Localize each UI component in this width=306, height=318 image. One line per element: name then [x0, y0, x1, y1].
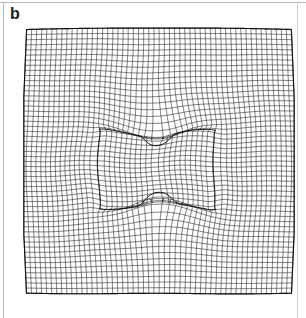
mesh-line-vertical: [180, 28, 188, 293]
mesh-line-vertical: [151, 28, 154, 293]
mesh-line-horizontal: [24, 146, 294, 150]
mesh-line-horizontal: [24, 136, 294, 141]
mesh-line-horizontal: [24, 199, 294, 217]
mesh-line-vertical: [205, 28, 212, 294]
mesh-line-horizontal: [24, 193, 294, 197]
mesh-line-vertical: [220, 28, 228, 294]
mesh-line-vertical: [158, 28, 163, 293]
mesh-line-vertical: [70, 28, 78, 293]
mesh-line-vertical: [127, 28, 134, 293]
mesh-line-vertical: [46, 29, 52, 294]
mesh-line-horizontal: [24, 183, 294, 187]
figure-page: b: [0, 0, 306, 318]
deformed-mesh-figure: [0, 0, 306, 318]
mesh-line-horizontal: [24, 197, 294, 202]
mesh-line-horizontal: [24, 179, 294, 183]
mesh-svg: [0, 0, 306, 318]
mesh-line-vertical: [271, 29, 276, 294]
mesh-line-vertical: [246, 28, 252, 293]
mesh-line-horizontal: [24, 131, 294, 137]
mesh-line-vertical: [241, 28, 247, 293]
mesh-line-horizontal: [24, 160, 294, 163]
mesh-line-vertical: [50, 29, 57, 294]
mesh-gridlines: [24, 28, 294, 294]
mesh-line-vertical: [107, 28, 112, 293]
mesh-line-vertical: [122, 28, 128, 293]
mesh-line-horizontal: [24, 165, 294, 168]
mesh-line-horizontal: [24, 188, 294, 192]
mesh-line-vertical: [117, 28, 123, 293]
mesh-line-horizontal: [24, 204, 294, 222]
mesh-line-vertical: [236, 28, 243, 294]
mesh-line-horizontal: [24, 141, 294, 146]
mesh-line-vertical: [112, 28, 118, 293]
mesh-line-vertical: [251, 29, 257, 294]
